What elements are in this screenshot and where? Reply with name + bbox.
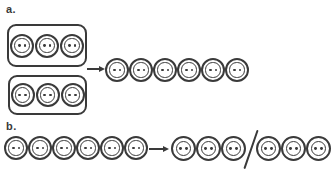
- two-hole-button-icon: [153, 58, 177, 82]
- button-hole: [42, 147, 45, 150]
- button-hole: [68, 94, 71, 97]
- button-hole: [320, 147, 323, 150]
- arrow-icon: [149, 146, 169, 152]
- button-rim: [56, 140, 71, 155]
- button-hole: [235, 147, 238, 150]
- button-hole: [43, 94, 46, 97]
- button-rim: [201, 141, 217, 157]
- two-hole-button-icon: [11, 83, 35, 107]
- two-hole-button-icon: [201, 58, 225, 82]
- part-b-result-group-2: [256, 136, 331, 161]
- button-hole: [36, 147, 39, 150]
- button-rim: [229, 62, 244, 77]
- button-rim: [80, 140, 95, 155]
- button-hole: [215, 69, 218, 72]
- button-hole: [179, 147, 182, 150]
- two-hole-button-icon: [221, 136, 246, 161]
- two-hole-button-icon: [256, 136, 281, 161]
- button-rim: [128, 140, 143, 155]
- part-a-group-box-1: [7, 24, 87, 67]
- button-rim: [311, 141, 327, 157]
- button-hole: [18, 94, 21, 97]
- part-b-result-group-1: [171, 136, 246, 161]
- button-rim: [157, 62, 172, 77]
- button-rim: [65, 87, 80, 102]
- button-rim: [64, 38, 79, 53]
- button-hole: [143, 69, 146, 72]
- button-hole: [60, 147, 63, 150]
- button-hole: [239, 69, 242, 72]
- button-rim: [181, 62, 196, 77]
- button-hole: [43, 44, 46, 47]
- two-hole-button-icon: [124, 136, 148, 160]
- button-hole: [204, 147, 207, 150]
- button-hole: [137, 69, 140, 72]
- button-hole: [210, 147, 213, 150]
- two-hole-button-icon: [28, 136, 52, 160]
- button-hole: [108, 147, 111, 150]
- button-rim: [205, 62, 220, 77]
- button-hole: [167, 69, 170, 72]
- button-rim: [14, 38, 29, 53]
- button-hole: [18, 44, 21, 47]
- button-hole: [161, 69, 164, 72]
- button-hole: [229, 147, 232, 150]
- part-b-source-row: [4, 136, 148, 160]
- two-hole-button-icon: [177, 58, 201, 82]
- arrow-icon: [87, 66, 105, 72]
- two-hole-button-icon: [171, 136, 196, 161]
- button-hole: [12, 147, 15, 150]
- part-a-group-box-2: [8, 75, 87, 115]
- two-hole-button-icon: [129, 58, 153, 82]
- two-hole-button-icon: [4, 136, 28, 160]
- button-hole: [289, 147, 292, 150]
- button-hole: [233, 69, 236, 72]
- two-hole-button-icon: [100, 136, 124, 160]
- two-hole-button-icon: [60, 34, 84, 58]
- button-hole: [113, 69, 116, 72]
- button-rim: [15, 87, 30, 102]
- button-hole: [295, 147, 298, 150]
- two-hole-button-icon: [35, 34, 59, 58]
- two-hole-button-icon: [61, 83, 85, 107]
- two-hole-button-icon: [281, 136, 306, 161]
- button-hole: [24, 44, 27, 47]
- button-hole: [18, 147, 21, 150]
- button-hole: [68, 44, 71, 47]
- button-hole: [24, 94, 27, 97]
- button-hole: [185, 69, 188, 72]
- button-hole: [90, 147, 93, 150]
- two-hole-button-icon: [36, 83, 60, 107]
- arrow-line: [149, 148, 163, 150]
- two-hole-button-icon: [52, 136, 76, 160]
- button-rim: [133, 62, 148, 77]
- button-rim: [109, 62, 124, 77]
- button-hole: [314, 147, 317, 150]
- button-hole: [191, 69, 194, 72]
- button-hole: [74, 44, 77, 47]
- two-hole-button-icon: [105, 58, 129, 82]
- two-hole-button-icon: [76, 136, 100, 160]
- button-rim: [286, 141, 302, 157]
- part-a-label: a.: [6, 3, 16, 15]
- button-hole: [209, 69, 212, 72]
- part-b-label: b.: [6, 120, 17, 132]
- button-hole: [49, 44, 52, 47]
- button-rim: [8, 140, 23, 155]
- button-hole: [119, 69, 122, 72]
- button-rim: [39, 38, 54, 53]
- button-rim: [261, 141, 277, 157]
- button-rim: [32, 140, 47, 155]
- two-hole-button-icon: [10, 34, 34, 58]
- button-hole: [185, 147, 188, 150]
- arrow-line: [87, 68, 99, 70]
- button-hole: [114, 147, 117, 150]
- part-a-result-row: [105, 58, 249, 82]
- two-hole-button-icon: [196, 136, 221, 161]
- button-rim: [104, 140, 119, 155]
- two-hole-button-icon: [306, 136, 331, 161]
- button-hole: [84, 147, 87, 150]
- button-hole: [66, 147, 69, 150]
- button-hole: [74, 94, 77, 97]
- button-hole: [138, 147, 141, 150]
